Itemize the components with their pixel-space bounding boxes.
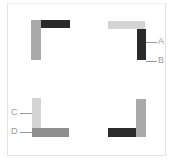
label-a: A [158, 37, 164, 46]
label-c: C [11, 108, 18, 117]
top-right-vertical-bar [137, 29, 146, 60]
bottom-left-horizontal-bar [32, 128, 69, 137]
top-left-horizontal-bar [41, 20, 70, 28]
top-right-horizontal-bar [108, 21, 145, 29]
leader-line-d [20, 132, 32, 133]
top-left-vertical-bar [31, 20, 41, 60]
label-b: B [158, 56, 164, 65]
bottom-right-vertical-bar [136, 99, 146, 137]
label-d: D [11, 127, 18, 136]
leader-line-c [20, 113, 32, 114]
bottom-right-horizontal-bar [108, 128, 136, 137]
bottom-left-vertical-bar [32, 98, 41, 128]
leader-line-a [146, 42, 157, 43]
leader-line-b [146, 61, 157, 62]
